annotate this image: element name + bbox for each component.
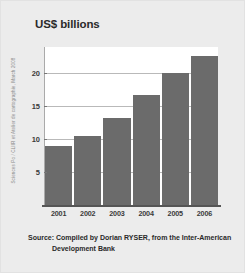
y-tick-label: 20 — [22, 69, 40, 78]
y-tick-label: 15 — [22, 102, 40, 111]
bar-2005[interactable] — [162, 73, 189, 205]
source-credit-rotated: Sciences Po / CLIIR et Atelier de cartog… — [11, 46, 16, 196]
bar-2003[interactable] — [103, 118, 130, 205]
chart-figure: Sciences Po / CLIIR et Atelier de cartog… — [0, 0, 245, 273]
x-tick-label-2004: 2004 — [133, 209, 160, 218]
caption-line-1: Source: Compiled by Dorian RYSER, from t… — [28, 234, 231, 241]
chart-title: US$ billions — [35, 18, 100, 30]
y-tick-label: 5 — [22, 168, 40, 177]
y-tick-label: 10 — [22, 135, 40, 144]
y-axis-line — [44, 47, 45, 205]
y-tick-mark — [44, 106, 47, 107]
bar-2001[interactable] — [45, 146, 72, 205]
y-tick-mark — [44, 172, 47, 173]
caption-line-2: Development Bank — [28, 244, 236, 255]
bar-2004[interactable] — [133, 95, 160, 205]
plot-area — [45, 47, 218, 205]
x-axis-line — [42, 205, 221, 207]
bar-2006[interactable] — [191, 56, 218, 205]
bar-2002[interactable] — [74, 136, 101, 205]
chart-caption: Source: Compiled by Dorian RYSER, from t… — [28, 233, 236, 255]
x-tick-label-2003: 2003 — [103, 209, 130, 218]
x-tick-label-2001: 2001 — [45, 209, 72, 218]
x-axis-labels: 200120022003200420052006 — [45, 209, 218, 218]
y-tick-mark — [44, 139, 47, 140]
x-tick-label-2006: 2006 — [191, 209, 218, 218]
y-tick-mark — [44, 73, 47, 74]
x-tick-label-2002: 2002 — [74, 209, 101, 218]
bar-series — [45, 47, 218, 205]
x-tick-label-2005: 2005 — [162, 209, 189, 218]
